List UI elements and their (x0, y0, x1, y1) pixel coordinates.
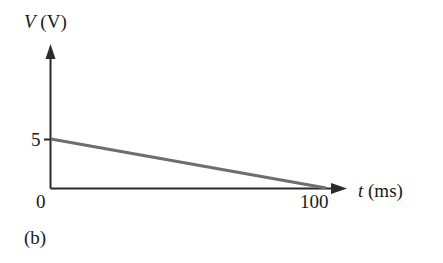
figure-panel: V (V) t (ms) 5 0 100 (b) (0, 0, 443, 263)
x-axis-label: t (ms) (358, 181, 403, 200)
y-axis-arrowhead (46, 44, 56, 59)
x-axis-unit: (ms) (363, 180, 403, 201)
y-axis-symbol: V (24, 11, 36, 32)
y-tick-label-5: 5 (31, 130, 41, 149)
x-tick-label-100: 100 (300, 192, 329, 211)
x-axis-arrowhead (331, 183, 347, 194)
data-line-voltage (51, 139, 326, 188)
plot-area (0, 0, 443, 263)
x-tick-label-0: 0 (36, 192, 46, 211)
panel-caption: (b) (24, 228, 46, 247)
y-axis-label: V (V) (24, 12, 67, 31)
y-axis-unit: (V) (36, 11, 67, 32)
